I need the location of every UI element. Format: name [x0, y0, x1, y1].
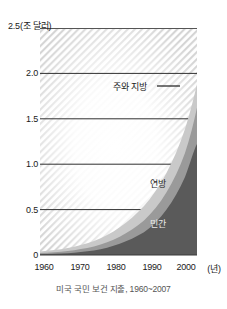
chart-figure: 2.5(조 달러) 2.0 1.5 1.0 0.5 0 1960 1970 19…	[0, 0, 227, 309]
chart-caption: 미국 국민 보건 지출, 1960~2007	[0, 282, 227, 294]
x-tick-2000: 2000	[176, 262, 195, 272]
x-axis-unit-label: (년)	[207, 262, 220, 275]
y-tick-0: 0	[33, 250, 38, 260]
x-tick-1980: 1980	[106, 262, 125, 272]
y-tick-1-5: 1.5	[26, 114, 38, 124]
y-axis-labels: 2.0 1.5 1.0 0.5 0	[0, 0, 38, 309]
y-tick-0-5: 0.5	[26, 205, 38, 215]
x-tick-1990: 1990	[142, 262, 161, 272]
series-label-federal: 연방	[150, 177, 166, 190]
series-label-state-local: 주와 지방	[113, 80, 147, 93]
y-tick-1-0: 1.0	[26, 159, 38, 169]
series-label-private: 민간	[150, 217, 166, 230]
y-tick-2-0: 2.0	[26, 68, 38, 78]
x-tick-1970: 1970	[70, 262, 89, 272]
x-tick-1960: 1960	[34, 262, 53, 272]
